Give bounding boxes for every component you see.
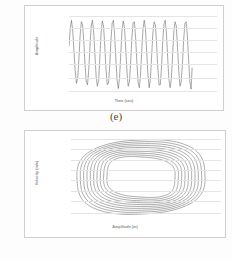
- chart-g-y-axis-title: Velocity (m/s): [35, 151, 39, 195]
- gridline: [69, 91, 217, 92]
- chart-e-plot-area: 0.0752260.025226-0.075226-0.224774-0.424…: [69, 16, 217, 92]
- chart-g-plot-area: 1.8557421.5647420.8947420.3647420.115206…: [71, 139, 221, 217]
- gridline: [71, 170, 221, 171]
- gridline: [69, 78, 217, 79]
- gridline: [71, 180, 221, 181]
- gridline: [69, 64, 217, 65]
- gridline: [71, 160, 221, 161]
- gridline: [69, 40, 217, 41]
- gridline: [71, 201, 221, 202]
- phase-orbit-loop: [104, 155, 179, 200]
- gridline: [69, 16, 217, 17]
- chart-g-phase-portrait: [71, 139, 221, 217]
- chart-e-y-axis-title: Amplitude: [35, 26, 39, 66]
- figure-container: 0.0752260.025226-0.075226-0.224774-0.424…: [0, 0, 232, 260]
- chart-e-x-axis-title: Time (sec): [25, 99, 223, 103]
- gridline: [71, 139, 221, 140]
- gridline: [69, 28, 217, 29]
- chart-g-frame: 1.8557421.5647420.8947420.3647420.115206…: [24, 130, 226, 238]
- gridline: [71, 149, 221, 150]
- chart-g-x-axis-title: Amplitude (m): [25, 225, 225, 229]
- gridline: [69, 52, 217, 53]
- gridline: [71, 213, 221, 214]
- panel-g: 1.8557421.5647420.8947420.3647420.115206…: [0, 126, 232, 260]
- phase-orbit-loop: [97, 151, 185, 203]
- gridline: [71, 191, 221, 192]
- subfigure-caption-e: (e): [0, 110, 232, 122]
- panel-e: 0.0752260.025226-0.075226-0.224774-0.424…: [0, 0, 232, 130]
- chart-e-frame: 0.0752260.025226-0.075226-0.224774-0.424…: [24, 5, 224, 111]
